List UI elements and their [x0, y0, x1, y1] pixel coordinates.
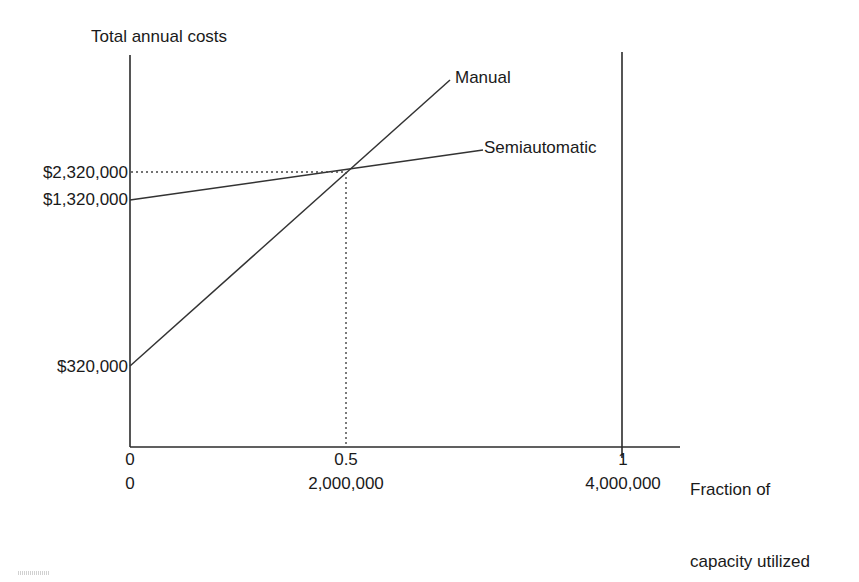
- x-tick-units-4000000: 4,000,000: [558, 474, 688, 495]
- y-axis-title: Total annual costs: [91, 27, 227, 48]
- x-tick-fraction-0-5: 0.5: [301, 450, 391, 471]
- x-axis-caption: Fraction of capacity utilized Units prod…: [690, 430, 817, 582]
- cost-comparison-chart: Total annual costs $2,320,000 $1,320,000…: [0, 0, 859, 582]
- series-line-manual: [130, 80, 450, 366]
- y-tick-label-2320000: $2,320,000: [28, 163, 128, 184]
- series-label-semiautomatic: Semiautomatic: [484, 138, 596, 159]
- series-label-manual: Manual: [455, 68, 511, 89]
- y-tick-label-1320000: $1,320,000: [28, 190, 128, 211]
- x-tick-units-0: 0: [65, 474, 195, 495]
- series-line-semiautomatic: [130, 150, 483, 200]
- y-tick-label-320000: $320,000: [28, 357, 128, 378]
- caption-line-2: capacity utilized: [690, 550, 817, 574]
- x-tick-units-2000000: 2,000,000: [281, 474, 411, 495]
- x-tick-fraction-0: 0: [85, 450, 175, 471]
- caption-line-1: Fraction of: [690, 478, 817, 502]
- x-tick-fraction-1: 1: [578, 450, 668, 471]
- scan-artifact-mark: [18, 571, 49, 575]
